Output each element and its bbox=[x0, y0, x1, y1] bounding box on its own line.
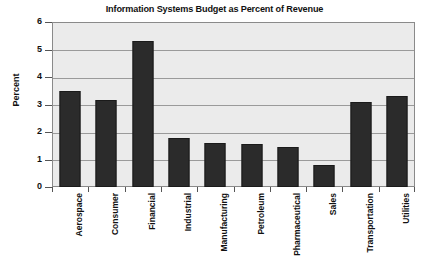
y-tick-label: 2 bbox=[12, 126, 42, 136]
x-tick-label: Transportation bbox=[365, 193, 375, 273]
y-tick-label: 6 bbox=[12, 16, 42, 26]
x-tick-mark bbox=[234, 187, 235, 192]
bar[interactable] bbox=[169, 138, 190, 188]
bar-slot bbox=[197, 22, 233, 187]
y-tick-label: 4 bbox=[12, 71, 42, 81]
bar-slot bbox=[125, 22, 161, 187]
bar[interactable] bbox=[350, 102, 371, 187]
y-tick-mark bbox=[45, 160, 52, 161]
bar-slot bbox=[306, 22, 342, 187]
bar[interactable] bbox=[205, 143, 226, 187]
x-tick-mark bbox=[197, 187, 198, 192]
bar-chart: Information Systems Budget as Percent of… bbox=[0, 0, 429, 275]
bar[interactable] bbox=[241, 144, 262, 187]
bar[interactable] bbox=[60, 91, 81, 187]
x-tick-mark bbox=[88, 187, 89, 192]
y-tick-mark bbox=[45, 77, 52, 78]
y-axis-ticks: 0123456 bbox=[0, 0, 52, 209]
bar-slot bbox=[161, 22, 197, 187]
x-tick-label: Sales bbox=[328, 193, 338, 273]
x-tick-mark bbox=[52, 187, 53, 192]
bar[interactable] bbox=[132, 41, 153, 187]
bar-slot bbox=[88, 22, 124, 187]
bar[interactable] bbox=[314, 165, 335, 187]
chart-title: Information Systems Budget as Percent of… bbox=[9, 3, 421, 14]
x-tick-label: Utilities bbox=[401, 193, 411, 273]
x-tick-mark bbox=[125, 187, 126, 192]
bar-slot bbox=[52, 22, 88, 187]
x-tick-mark bbox=[414, 187, 415, 192]
x-tick-mark bbox=[342, 187, 343, 192]
x-tick-mark bbox=[161, 187, 162, 192]
y-tick-label: 5 bbox=[12, 44, 42, 54]
y-tick-mark bbox=[45, 132, 52, 133]
bar[interactable] bbox=[386, 96, 407, 187]
bar-slot bbox=[342, 22, 378, 187]
y-tick-mark bbox=[45, 105, 52, 106]
bars-layer bbox=[52, 22, 415, 187]
x-axis-labels: AerospaceConsumerFinancialIndustrialManu… bbox=[52, 193, 415, 273]
x-tick-mark bbox=[306, 187, 307, 192]
x-tick-mark bbox=[379, 187, 380, 192]
bar-slot bbox=[234, 22, 270, 187]
x-tick-label: Pharmaceutical bbox=[292, 193, 302, 273]
bar-slot bbox=[379, 22, 415, 187]
y-tick-mark bbox=[45, 50, 52, 51]
x-tick-label: Industrial bbox=[183, 193, 193, 273]
bar[interactable] bbox=[96, 100, 117, 187]
y-tick-mark bbox=[45, 187, 52, 188]
bar-slot bbox=[270, 22, 306, 187]
x-tick-label: Petroleum bbox=[256, 193, 266, 273]
bar[interactable] bbox=[277, 147, 298, 187]
y-tick-label: 0 bbox=[12, 181, 42, 191]
x-tick-label: Consumer bbox=[110, 193, 120, 273]
y-tick-label: 3 bbox=[12, 99, 42, 109]
x-tick-label: Aerospace bbox=[74, 193, 84, 273]
x-tick-label: Manufacturing bbox=[219, 193, 229, 273]
y-tick-mark bbox=[45, 22, 52, 23]
x-tick-label: Financial bbox=[147, 193, 157, 273]
x-tick-mark bbox=[270, 187, 271, 192]
y-tick-label: 1 bbox=[12, 154, 42, 164]
